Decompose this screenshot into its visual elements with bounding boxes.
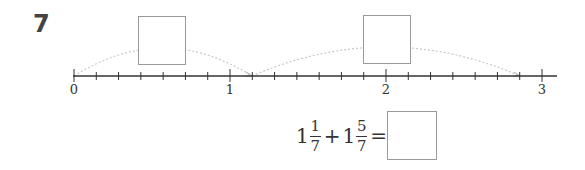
number-line	[0, 0, 585, 110]
term1-denominator: 7	[310, 138, 320, 155]
term1-whole: 1	[296, 124, 309, 148]
term2-whole: 1	[343, 124, 356, 148]
term2-numerator: 5	[357, 118, 367, 135]
tick-label-2: 2	[382, 82, 390, 97]
equals-sign: =	[370, 124, 387, 148]
term2-fraction: 5 7	[356, 118, 367, 155]
jump-answer-box-1[interactable]	[138, 16, 186, 65]
term1-fraction: 1 7	[310, 118, 321, 155]
plus-operator: +	[324, 124, 341, 148]
tick-label-0: 0	[70, 82, 78, 97]
term2-denominator: 7	[357, 138, 367, 155]
jump-answer-box-2[interactable]	[363, 15, 411, 64]
term1-numerator: 1	[310, 118, 320, 135]
tick-label-1: 1	[226, 82, 234, 97]
tick-label-3: 3	[538, 82, 546, 97]
equation: 1 1 7 + 1 5 7 =	[296, 112, 389, 160]
equation-answer-box[interactable]	[387, 111, 437, 160]
